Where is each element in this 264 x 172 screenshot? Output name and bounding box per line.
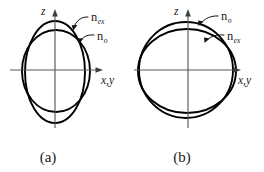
panel-b-z-axis-arrowhead [185,9,191,17]
panel-b-n-o-label: no [221,9,232,25]
panel-a: nex no z x,y (a) [0,0,132,172]
panel-a-xy-axis-label: x,y [100,74,115,87]
panel-b-xy-axis-label: x,y [237,74,252,87]
panel-b-caption: (b) [173,149,191,166]
panel-a-z-axis-arrowhead [52,9,58,17]
panel-a-n-ex-label: nex [91,10,105,26]
panel-b-n-ex-leader-arrowhead [204,38,210,43]
panel-b-xy-axis-arrowhead [234,67,242,73]
panel-b-n-ex-label: nex [227,29,241,45]
panel-b-n-ex-label-sub: ex [234,36,241,45]
panel-a-n-ex-leader [75,17,89,26]
panel-b: no nex z x,y (b) [132,0,264,172]
index-ellipsoid-figure: nex no z x,y (a) no nex z [0,0,264,172]
panel-b-n-ex-curve [138,29,236,113]
panel-b-n-o-leader [201,16,218,23]
panel-a-z-axis-label: z [40,5,46,17]
panel-a-n-o-label-sub: o [104,36,108,45]
panel-a-xy-axis-arrowhead [96,67,104,73]
panel-a-n-ex-label-sub: ex [98,17,105,26]
panel-a-caption: (a) [40,149,57,166]
panel-b-z-axis-label: z [173,5,179,17]
panel-a-n-o-label: no [97,29,108,45]
panel-b-n-o-label-sub: o [228,16,232,25]
